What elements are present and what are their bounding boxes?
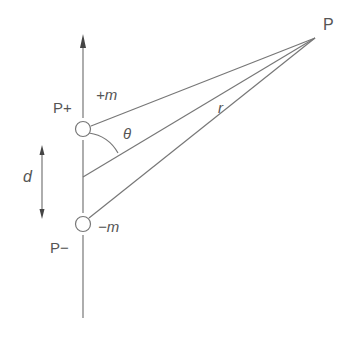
arrow-up-icon	[40, 145, 45, 155]
theta-arc	[89, 133, 118, 153]
separation-arrow	[40, 145, 45, 219]
axis-arrow-icon	[80, 34, 86, 48]
charge-minus-label: −m	[98, 218, 119, 235]
distance-label: r	[218, 99, 224, 116]
plus-pole-circle	[76, 122, 91, 137]
separation-label: d	[23, 168, 33, 185]
minus-pole-circle	[76, 217, 91, 232]
line-from-plus-pole	[91, 38, 315, 126]
pole-plus-label: P+	[53, 99, 72, 116]
dipole-diagram: P P+ +m r θ d −m P−	[0, 0, 347, 339]
arrow-down-icon	[40, 209, 45, 219]
line-r-from-midpoint	[83, 38, 315, 177]
angle-label: θ	[123, 125, 131, 142]
field-lines	[83, 38, 315, 218]
point-label: P	[323, 16, 334, 33]
pole-minus-label: P−	[50, 239, 69, 256]
charge-plus-label: +m	[96, 86, 117, 103]
